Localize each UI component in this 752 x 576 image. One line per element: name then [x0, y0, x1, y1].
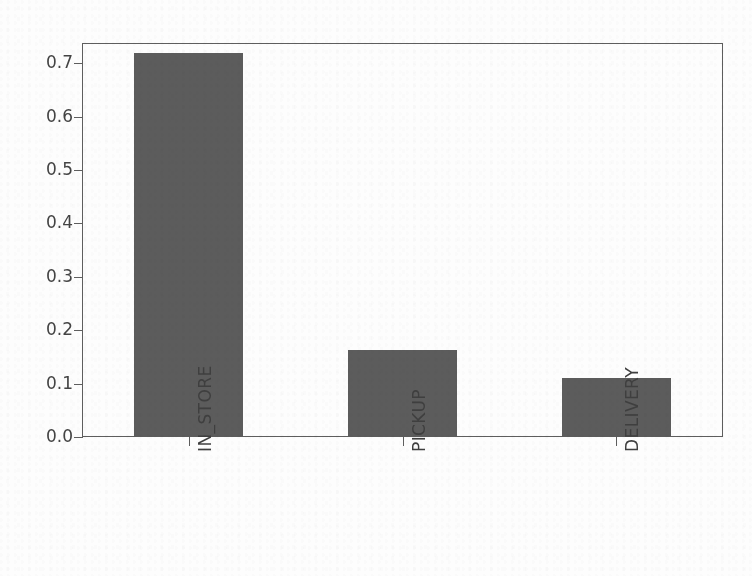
y-axis-tick-label: 0.4	[18, 214, 82, 231]
bar-in-store	[134, 53, 243, 437]
y-axis-tick	[74, 437, 83, 438]
y-axis-tick-label: 0.3	[18, 268, 82, 285]
y-axis-tick-label: 0.7	[18, 54, 82, 71]
y-axis-tick-label: 0.5	[18, 161, 82, 178]
y-axis-tick-label: 0.2	[18, 321, 82, 338]
y-axis-tick	[74, 117, 83, 118]
x-axis-tick	[616, 437, 617, 446]
y-axis-tick	[74, 277, 83, 278]
chart-title-remnant	[0, 0, 752, 9]
x-axis-tick	[403, 437, 404, 446]
y-axis-tick-label: 0.0	[18, 428, 82, 445]
y-axis-tick	[74, 330, 83, 331]
x-axis-tick	[189, 437, 190, 446]
y-axis-tick	[74, 63, 83, 64]
y-axis-tick-label: 0.6	[18, 108, 82, 125]
y-axis-tick	[74, 384, 83, 385]
bar-chart-figure: 0.00.10.20.30.40.50.60.7 IN_STOREPICKUPD…	[0, 0, 752, 576]
x-axis-tick-label-delivery: DELIVERY	[624, 367, 641, 452]
x-axis-tick-label-pickup: PICKUP	[411, 389, 428, 452]
y-axis-tick-label: 0.1	[18, 375, 82, 392]
x-axis-tick-label-in-store: IN_STORE	[197, 365, 214, 452]
bar-pickup	[348, 350, 457, 437]
y-axis-tick	[74, 223, 83, 224]
bar-delivery	[562, 378, 671, 437]
y-axis-tick	[74, 170, 83, 171]
y-axis-labels-group: 0.00.10.20.30.40.50.60.7	[0, 0, 82, 576]
